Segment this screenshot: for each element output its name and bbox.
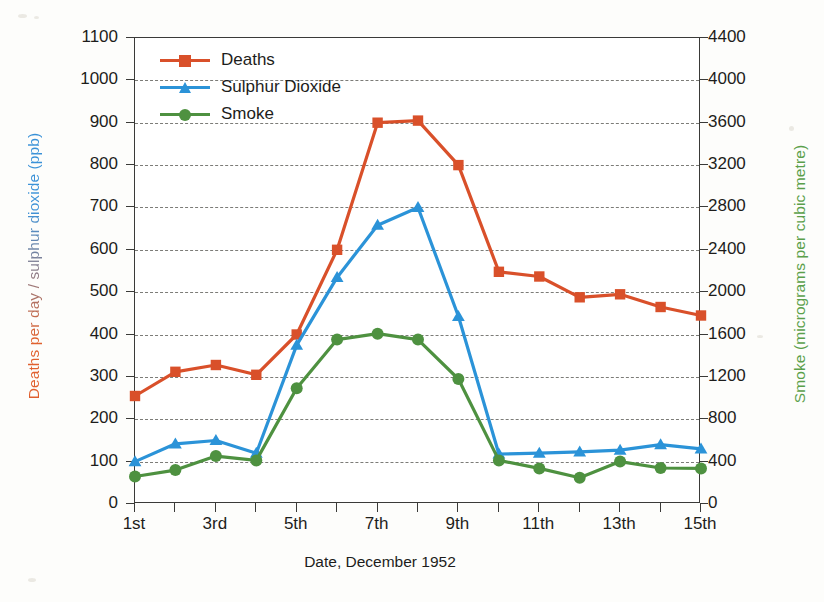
x-axis-tick-mark [498, 503, 499, 512]
y-axis-left-tick-mark [126, 37, 134, 38]
legend-item: Smoke [160, 100, 341, 127]
y-axis-right-tick-mark [700, 291, 708, 292]
data-point-marker [250, 454, 262, 466]
data-point-marker [372, 118, 382, 128]
series-line [135, 121, 701, 396]
data-point-marker [534, 271, 544, 281]
y-axis-right-tick-mark [700, 418, 708, 419]
y-axis-right-tick-label: 800 [708, 408, 798, 428]
y-axis-right-tick-mark [700, 122, 708, 123]
y-axis-right-tick-mark [700, 164, 708, 165]
data-point-marker [413, 115, 423, 125]
x-axis-tick-label: 7th [365, 514, 389, 534]
x-axis-tick-mark [296, 503, 297, 512]
data-point-marker [655, 302, 665, 312]
x-axis-tick-label: 15th [683, 514, 716, 534]
y-axis-left-tick-label: 1000 [28, 69, 118, 89]
y-axis-left-tick-label: 900 [28, 112, 118, 132]
y-axis-right-tick-label: 2000 [708, 281, 798, 301]
x-axis-tick-mark [660, 503, 661, 512]
data-point-marker [130, 391, 140, 401]
y-axis-right-tick-mark [700, 37, 708, 38]
series-deaths [130, 115, 706, 401]
x-axis-tick-label: 9th [446, 514, 470, 534]
y-axis-left-tick-mark [126, 418, 134, 419]
x-axis-tick-label: 13th [603, 514, 636, 534]
y-axis-right-tick-label: 2400 [708, 239, 798, 259]
data-point-marker [372, 328, 384, 340]
legend-square-icon [160, 53, 210, 67]
data-point-marker [614, 456, 626, 468]
y-axis-left-tick-label: 500 [28, 281, 118, 301]
y-axis-left-tick-mark [126, 206, 134, 207]
legend-item: Sulphur Dioxide [160, 73, 341, 100]
data-point-marker [211, 360, 221, 370]
data-point-marker [169, 464, 181, 476]
data-point-marker [494, 267, 504, 277]
y-axis-right-tick-mark [700, 334, 708, 335]
data-point-marker [210, 450, 222, 462]
legend-item-label: Sulphur Dioxide [221, 77, 341, 97]
legend-item-label: Deaths [221, 50, 275, 70]
x-axis-tick-mark [255, 503, 256, 512]
x-axis-tick-mark [457, 503, 458, 512]
y-axis-left-tick-mark [126, 122, 134, 123]
y-axis-left-tick-mark [126, 334, 134, 335]
y-axis-left-tick-mark [126, 503, 134, 504]
data-point-marker [332, 245, 342, 255]
data-point-marker [655, 462, 667, 474]
chart-figure: Deaths per day / sulphur dioxide (ppb) S… [0, 0, 824, 602]
y-axis-left-tick-label: 400 [28, 324, 118, 344]
y-axis-right-tick-label: 3200 [708, 154, 798, 174]
data-point-marker [452, 310, 465, 321]
x-axis-tick-label: 1st [123, 514, 146, 534]
y-axis-left-tick-label: 0 [28, 493, 118, 513]
y-axis-right-tick-label: 1200 [708, 366, 798, 386]
x-axis-tick-mark [700, 503, 701, 512]
data-point-marker [452, 373, 464, 385]
chart-legend: DeathsSulphur DioxideSmoke [160, 46, 341, 127]
y-axis-right-tick-mark [700, 206, 708, 207]
x-axis-tick-mark [336, 503, 337, 512]
data-point-marker [533, 462, 545, 474]
data-point-marker [129, 471, 141, 483]
x-axis-tick-label: 3rd [203, 514, 228, 534]
legend-item: Deaths [160, 46, 341, 73]
y-axis-right-tick-label: 4000 [708, 69, 798, 89]
data-point-marker [412, 201, 425, 212]
x-axis-title: Date, December 1952 [0, 553, 760, 571]
x-axis-tick-mark [134, 503, 135, 512]
paper-speck [18, 14, 27, 18]
y-axis-left-tick-label: 700 [28, 196, 118, 216]
x-axis-tick-mark [579, 503, 580, 512]
x-axis-tick-mark [619, 503, 620, 512]
data-point-marker [493, 454, 505, 466]
data-point-marker [331, 334, 343, 346]
x-axis-tick-mark [377, 503, 378, 512]
x-axis-tick-mark [417, 503, 418, 512]
y-axis-left-tick-label: 1100 [28, 27, 118, 47]
data-point-marker [615, 289, 625, 299]
y-axis-left-tick-mark [126, 376, 134, 377]
x-axis-tick-label: 11th [522, 514, 554, 534]
y-axis-right-tick-label: 3600 [708, 112, 798, 132]
series-smoke [129, 328, 707, 484]
data-point-marker [251, 370, 261, 380]
y-axis-right-tick-mark [700, 249, 708, 250]
x-axis-tick-label: 5th [284, 514, 308, 534]
data-point-marker [695, 462, 707, 474]
data-point-marker [453, 160, 463, 170]
data-point-marker [291, 382, 303, 394]
data-point-marker [170, 367, 180, 377]
y-axis-left-tick-label: 600 [28, 239, 118, 259]
data-point-marker [696, 310, 706, 320]
paper-speck [28, 578, 36, 582]
y-axis-left-tick-mark [126, 291, 134, 292]
y-axis-left-tick-mark [126, 164, 134, 165]
y-axis-right-tick-mark [700, 503, 708, 504]
y-axis-left-tick-label: 300 [28, 366, 118, 386]
legend-item-label: Smoke [221, 104, 274, 124]
y-axis-left-tick-mark [126, 249, 134, 250]
y-axis-right-tick-mark [700, 461, 708, 462]
y-axis-right-tick-mark [700, 79, 708, 80]
